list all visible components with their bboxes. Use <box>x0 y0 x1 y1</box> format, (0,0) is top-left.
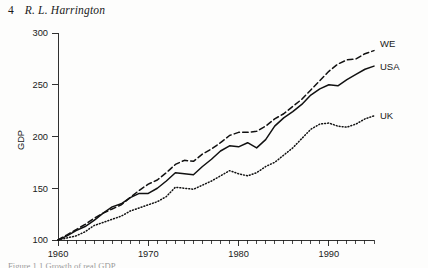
y-tick-label-100: 100 <box>32 235 48 245</box>
x-axis-minor-ticks <box>67 240 374 244</box>
chart-series-labels: WEUSAUK <box>380 38 400 122</box>
series-label-we: WE <box>380 38 395 49</box>
x-tick-label-1970: 1970 <box>138 249 159 259</box>
x-tick-label-1990: 1990 <box>319 249 340 259</box>
y-tick-label-250: 250 <box>32 80 48 90</box>
y-tick-label-150: 150 <box>32 184 48 194</box>
series-label-uk: UK <box>380 110 394 121</box>
series-label-usa: USA <box>380 61 400 72</box>
running-head-author: R. L. Harrington <box>25 4 106 16</box>
chart-series-group <box>58 51 374 240</box>
chart-axes <box>58 33 374 240</box>
x-tick-label-1960: 1960 <box>48 249 69 259</box>
figure-gdp-chart: 100150200250300 1960197019801990 WEUSAUK… <box>0 22 428 262</box>
y-tick-label-300: 300 <box>32 28 48 38</box>
figure-caption-fragment: Figure 1.1 Growth of real GDP <box>8 261 308 268</box>
series-path-usa <box>58 66 374 240</box>
y-axis-ticks: 100150200250300 <box>32 28 58 245</box>
x-tick-label-1980: 1980 <box>228 249 249 259</box>
running-head: 4 R. L. Harrington <box>8 4 105 20</box>
book-page: 4 R. L. Harrington 100150200250300 19601… <box>0 0 428 268</box>
series-path-uk <box>58 116 374 240</box>
gdp-line-chart: 100150200250300 1960197019801990 WEUSAUK… <box>0 22 428 262</box>
y-axis-title: GDP <box>16 130 26 150</box>
y-tick-label-200: 200 <box>32 132 48 142</box>
page-folio: 4 <box>8 4 14 16</box>
